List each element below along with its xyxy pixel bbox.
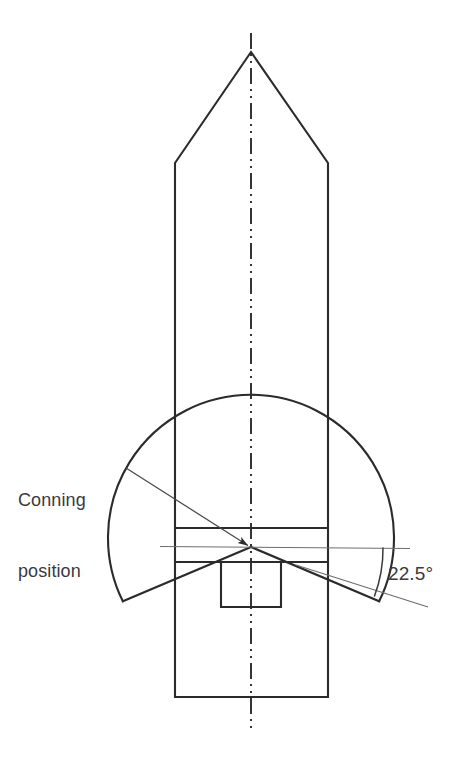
angle-indicator-arc xyxy=(375,548,384,596)
diagram-canvas xyxy=(0,0,456,762)
blind-sector-port-radius xyxy=(123,547,251,601)
conning-position-leader-line xyxy=(126,468,248,546)
conning-position-diagram: Conning position 22.5° xyxy=(0,0,456,762)
conning-position-label-line2: position xyxy=(18,560,86,584)
conning-position-label: Conning position xyxy=(18,441,86,631)
angle-label: 22.5° xyxy=(388,561,433,586)
horizontal-sight-line xyxy=(160,547,410,549)
conning-position-label-line1: Conning xyxy=(18,489,86,513)
blind-sector-starboard-radius xyxy=(251,547,379,601)
